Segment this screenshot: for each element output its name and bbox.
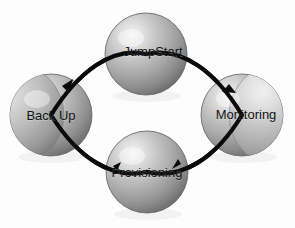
sphere-highlight-jumpstart (118, 29, 144, 47)
cycle-diagram: JumpStart Monitoring Provisioning Back U… (0, 0, 295, 228)
node-sphere-jumpstart[interactable] (105, 13, 187, 102)
sphere-highlight-provisioning (119, 147, 145, 165)
diagram-canvas (0, 0, 295, 228)
node-sphere-provisioning[interactable] (106, 131, 188, 220)
sphere-highlight-backup (24, 90, 50, 108)
